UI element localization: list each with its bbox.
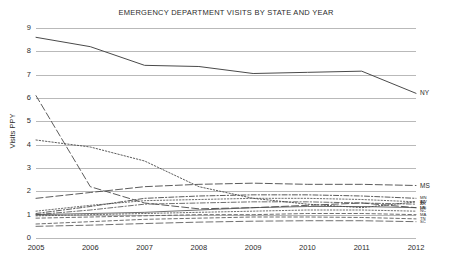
- series-line: [36, 140, 416, 208]
- x-tick-label: 2008: [191, 244, 208, 252]
- x-tick-label: 2010: [299, 244, 316, 252]
- series-line: [36, 96, 416, 209]
- series-line: [36, 210, 416, 216]
- series-line: [36, 198, 416, 211]
- y-axis-label: Visits PPY: [8, 114, 17, 149]
- series-lines: [36, 28, 416, 238]
- series-label-sc: SC: [420, 220, 426, 224]
- series-line: [36, 195, 416, 214]
- x-tick-label: 2007: [136, 244, 153, 252]
- series-line: [36, 214, 416, 219]
- chart-container: EMERGENCY DEPARTMENT VISITS BY STATE AND…: [0, 0, 452, 262]
- y-tick-label: 0: [27, 234, 31, 242]
- y-tick-label: 2: [27, 188, 31, 196]
- y-tick-label: 9: [27, 24, 31, 32]
- gridline: [36, 238, 416, 239]
- y-tick-label: 5: [27, 118, 31, 126]
- y-tick-label: 4: [27, 141, 31, 149]
- y-tick-label: 3: [27, 164, 31, 172]
- y-tick-label: 1: [27, 211, 31, 219]
- x-tick-label: 2005: [28, 244, 45, 252]
- series-label-ms2: MS: [420, 182, 430, 189]
- x-tick-label: 2006: [82, 244, 99, 252]
- series-line: [36, 37, 416, 93]
- y-tick-label: 6: [27, 94, 31, 102]
- x-tick-label: 2011: [354, 244, 370, 252]
- y-tick-label: 7: [27, 71, 31, 79]
- x-tick-label: 2009: [245, 244, 262, 252]
- chart-title: EMERGENCY DEPARTMENT VISITS BY STATE AND…: [0, 8, 452, 17]
- x-tick-label: 2012: [408, 244, 425, 252]
- y-tick-label: 8: [27, 48, 31, 56]
- plot-area: 0123456789 20052006200720082009201020112…: [36, 28, 416, 238]
- series-label-ny: NY: [420, 90, 429, 97]
